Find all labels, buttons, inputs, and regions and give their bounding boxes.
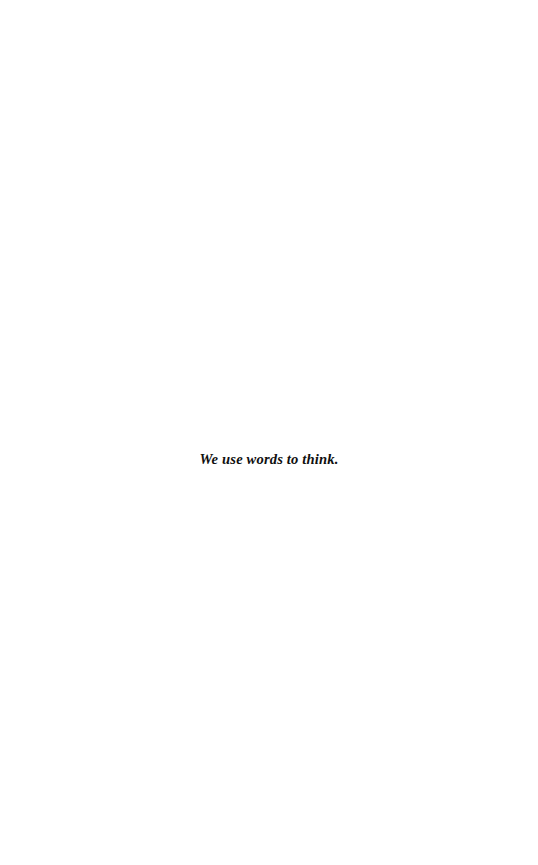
book-page: We use words to think. bbox=[0, 0, 538, 865]
epigraph-block: We use words to think. bbox=[0, 0, 538, 865]
epigraph-text: We use words to think. bbox=[200, 451, 339, 468]
